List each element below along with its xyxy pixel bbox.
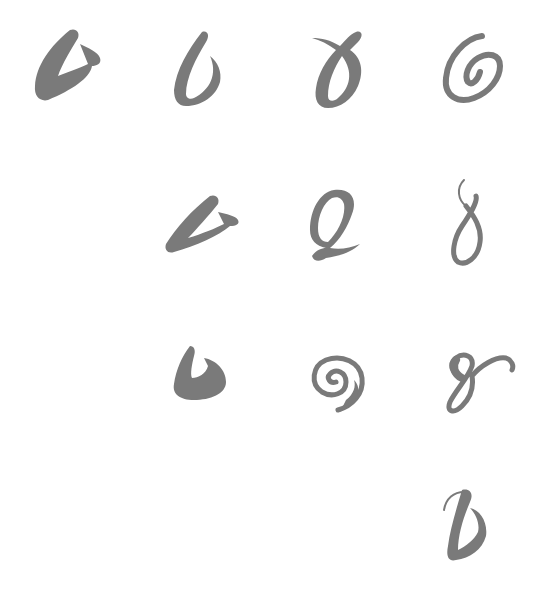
brush-glyph-figure-eight (446, 176, 494, 272)
brush-glyph-open-loop (170, 28, 226, 108)
brush-glyph-hook (170, 344, 232, 404)
brush-glyph-swash (440, 486, 500, 566)
glyph-sheet (0, 0, 548, 592)
brush-glyph-flourish-loop (440, 346, 516, 418)
brush-glyph-snail-spiral (298, 348, 370, 414)
brush-glyph-crossed-loop (310, 28, 370, 112)
brush-glyph-q-loop (304, 186, 368, 266)
brush-glyph-slanted-wedge (162, 190, 246, 260)
brush-glyph-spiral (438, 32, 506, 108)
brush-glyph-wedge (32, 26, 104, 106)
